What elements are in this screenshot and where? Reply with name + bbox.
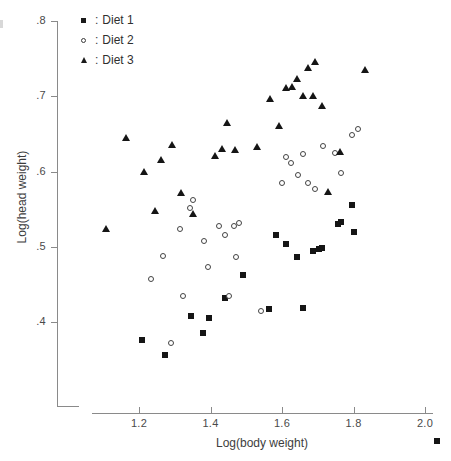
data-point-diet-2 <box>355 126 361 132</box>
data-point-diet-1 <box>319 245 325 251</box>
data-point-diet-2 <box>233 254 239 260</box>
data-point-diet-2 <box>283 154 289 160</box>
data-point-diet-2 <box>312 186 318 192</box>
data-point-diet-1 <box>200 330 206 336</box>
data-point-diet-2 <box>258 308 264 314</box>
data-point-diet-3 <box>266 95 274 102</box>
data-point-diet-1 <box>300 305 306 311</box>
scatter-plot-figure: .4.5.6.7.8 1.21.41.61.82.0 Log(body weig… <box>0 0 451 461</box>
data-point-diet-2 <box>222 232 228 238</box>
data-point-diet-2 <box>236 220 242 226</box>
data-point-diet-3 <box>324 188 332 195</box>
data-point-diet-3 <box>177 189 185 196</box>
data-point-diet-2 <box>279 180 285 186</box>
data-point-diet-3 <box>253 143 261 150</box>
data-point-diet-3 <box>299 92 307 99</box>
data-point-diet-3 <box>223 119 231 126</box>
data-point-diet-2 <box>300 151 306 157</box>
data-point-diet-3 <box>122 134 130 141</box>
data-point-diet-1 <box>283 241 289 247</box>
data-point-diet-1 <box>294 254 300 260</box>
data-point-diet-2 <box>190 197 196 203</box>
data-point-diet-2 <box>201 238 207 244</box>
data-point-diet-2 <box>349 132 355 138</box>
data-point-diet-2 <box>305 180 311 186</box>
data-point-diet-2 <box>288 160 294 166</box>
data-point-diet-2 <box>205 264 211 270</box>
data-point-diet-2 <box>216 223 222 229</box>
data-point-diet-1 <box>273 232 279 238</box>
data-point-diet-3 <box>231 146 239 153</box>
stray-square-artifact <box>434 438 440 444</box>
data-point-diet-3 <box>102 225 110 232</box>
data-point-diet-3 <box>318 102 326 109</box>
data-point-diet-2 <box>338 170 344 176</box>
data-point-diet-2 <box>168 340 174 346</box>
data-point-diet-2 <box>148 276 154 282</box>
data-point-diet-1 <box>206 315 212 321</box>
data-point-diet-1 <box>188 313 194 319</box>
data-point-diet-3 <box>218 145 226 152</box>
data-point-diet-2 <box>320 143 326 149</box>
data-point-diet-2 <box>295 172 301 178</box>
data-point-diet-3 <box>288 83 296 90</box>
data-point-diet-3 <box>157 156 165 163</box>
data-point-diet-1 <box>338 219 344 225</box>
data-point-diet-3 <box>189 210 197 217</box>
plot-data-surface <box>0 0 451 461</box>
data-point-diet-1 <box>240 272 246 278</box>
data-point-diet-1 <box>162 352 168 358</box>
data-point-diet-1 <box>351 229 357 235</box>
data-point-diet-2 <box>177 226 183 232</box>
data-point-diet-3 <box>168 141 176 148</box>
data-point-diet-3 <box>211 152 219 159</box>
data-point-diet-3 <box>293 75 301 82</box>
data-point-diet-1 <box>266 306 272 312</box>
data-point-diet-3 <box>140 168 148 175</box>
data-point-diet-3 <box>361 66 369 73</box>
data-point-diet-2 <box>180 293 186 299</box>
data-point-diet-3 <box>151 207 159 214</box>
data-point-diet-2 <box>226 293 232 299</box>
data-point-diet-2 <box>160 253 166 259</box>
data-point-diet-1 <box>139 337 145 343</box>
data-point-diet-3 <box>275 122 283 129</box>
data-point-diet-3 <box>311 58 319 65</box>
data-point-diet-3 <box>309 92 317 99</box>
data-point-diet-1 <box>349 202 355 208</box>
data-point-diet-3 <box>336 148 344 155</box>
